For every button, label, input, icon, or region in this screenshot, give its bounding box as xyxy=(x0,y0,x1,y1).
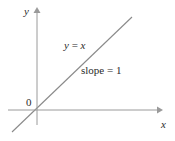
equation-right-term: x xyxy=(81,39,86,51)
x-axis-label: x xyxy=(161,119,166,130)
origin-label: 0 xyxy=(26,97,32,108)
equation-operator: = xyxy=(69,39,81,51)
x-axis-arrow-icon xyxy=(157,107,163,114)
equation-label: y = x xyxy=(64,40,86,51)
y-axis-arrow-icon xyxy=(34,7,41,13)
y-axis-label: y xyxy=(24,6,29,17)
graph-figure: y x 0 y = x slope = 1 xyxy=(0,0,175,141)
slope-label: slope = 1 xyxy=(81,65,121,76)
